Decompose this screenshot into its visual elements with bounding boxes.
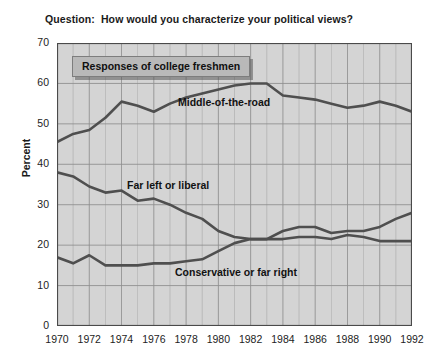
x-axis-tick-label: 1982 — [234, 333, 268, 345]
y-axis-tick-label: 70 — [25, 36, 49, 48]
x-axis-tick-label: 1980 — [201, 333, 235, 345]
legend-box: Responses of college freshmen — [72, 56, 250, 77]
x-axis-tick-label: 1992 — [395, 333, 429, 345]
y-axis-tick-label: 10 — [25, 279, 49, 291]
x-axis-tick-label: 1988 — [330, 333, 364, 345]
chart-figure: Question: How would you characterize you… — [0, 0, 440, 363]
series-label-conservative: Conservative or far right — [175, 266, 297, 278]
x-axis-tick-label: 1984 — [266, 333, 300, 345]
series-label-liberal: Far left or liberal — [127, 179, 209, 191]
x-axis-tick-label: 1990 — [363, 333, 397, 345]
y-axis-tick-label: 30 — [25, 198, 49, 210]
chart-canvas — [57, 43, 412, 326]
x-axis-tick-label: 1972 — [72, 333, 106, 345]
x-axis-tick-label: 1974 — [105, 333, 139, 345]
series-label-middle: Middle-of-the-road — [178, 96, 270, 108]
x-axis-tick-label: 1986 — [298, 333, 332, 345]
y-axis-tick-label: 0 — [25, 319, 49, 331]
y-axis-tick-label: 50 — [25, 117, 49, 129]
y-axis-tick-label: 60 — [25, 76, 49, 88]
x-axis-tick-label: 1970 — [40, 333, 74, 345]
x-axis-tick-label: 1978 — [169, 333, 203, 345]
plot-area — [57, 43, 412, 326]
y-axis-tick-label: 40 — [25, 157, 49, 169]
x-axis-tick-label: 1976 — [137, 333, 171, 345]
y-axis-tick-label: 20 — [25, 238, 49, 250]
page-title: Question: How would you characterize you… — [45, 13, 353, 25]
